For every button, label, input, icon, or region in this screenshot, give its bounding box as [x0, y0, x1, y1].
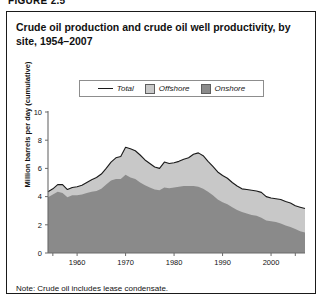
svg-text:4: 4 [38, 192, 42, 201]
chart-note: Note: Crude oil includes lease condensat… [16, 284, 168, 293]
svg-text:6: 6 [38, 164, 42, 173]
svg-text:1970: 1970 [117, 258, 134, 267]
area-chart-svg: 024681019601970198019902000 [0, 0, 324, 300]
svg-text:2000: 2000 [263, 258, 280, 267]
svg-text:8: 8 [38, 136, 42, 145]
svg-text:2: 2 [38, 221, 42, 230]
svg-text:0: 0 [38, 249, 42, 258]
figure-container: FIGURE 2.5 Crude oil production and crud… [0, 0, 324, 300]
svg-text:10: 10 [34, 108, 42, 117]
svg-text:1990: 1990 [214, 258, 231, 267]
svg-text:1980: 1980 [166, 258, 183, 267]
plot-area: 024681019601970198019902000 [0, 0, 324, 300]
svg-text:1960: 1960 [69, 258, 86, 267]
